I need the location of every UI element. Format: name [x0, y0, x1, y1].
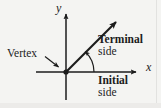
right-edge-rule — [156, 0, 157, 108]
vertex-point — [63, 69, 68, 74]
angle-standard-position-figure: Vertex Terminal side Initial side x y — [0, 0, 161, 108]
initial-side-label-line2: side — [98, 87, 117, 99]
initial-side-label-line1: Initial — [98, 75, 128, 87]
x-axis-label: x — [146, 61, 151, 73]
vertex-leader-line — [45, 57, 59, 68]
y-axis-label: y — [56, 2, 61, 14]
bottom-edge-band — [0, 103, 161, 108]
terminal-side-label-line1: Terminal — [98, 34, 143, 46]
angle-arc — [85, 52, 94, 72]
terminal-side-label-line2: side — [98, 46, 117, 58]
vertex-label: Vertex — [7, 48, 37, 60]
